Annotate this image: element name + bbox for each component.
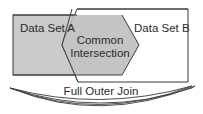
- full-outer-join-label: Full Outer Join: [64, 85, 139, 97]
- intersection-label-line1: Common: [77, 34, 124, 46]
- intersection-label-line2: Intersection: [70, 47, 129, 59]
- data-set-a-label: Data Set A: [20, 22, 75, 34]
- full-outer-join-diagram: Data Set A Data Set B Common Intersectio…: [0, 0, 203, 114]
- data-set-b-label: Data Set B: [134, 22, 190, 34]
